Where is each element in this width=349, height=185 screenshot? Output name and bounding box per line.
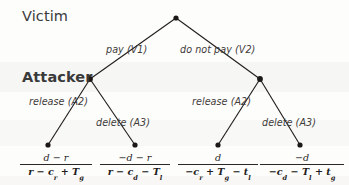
edge-label-pay: pay (V1) <box>106 44 147 55</box>
node-leaf-pay-delete <box>132 142 137 147</box>
edge-label-delete-left: delete (A3) <box>96 117 150 128</box>
node-root-victim <box>173 15 178 20</box>
payoff-denominator: −cd − Tl + tg <box>260 165 344 178</box>
payoff-nopay-delete: −d −cd − Tl + tg <box>260 152 344 178</box>
edge-label-release-right: release (A2) <box>192 96 251 107</box>
payoff-nopay-release: d −cr + Tg − tl <box>178 152 258 178</box>
node-attacker-right <box>257 76 263 82</box>
edge-label-delete-right: delete (A3) <box>262 117 316 128</box>
edge-delete-left-line <box>90 79 135 145</box>
game-tree-figure: Victim Attacker pay (V1) do not pay (V2)… <box>0 0 349 185</box>
player-label-attacker: Attacker <box>22 69 93 85</box>
edge-release-right-line <box>218 79 260 145</box>
player-label-victim: Victim <box>22 8 68 24</box>
node-leaf-pay-release <box>45 142 50 147</box>
payoff-denominator: −cr + Tg − tl <box>178 165 258 178</box>
payoff-pay-release: d − r r − cr + Tg <box>20 152 92 178</box>
payoff-denominator: r − cd − Tl <box>100 165 170 178</box>
node-leaf-nopay-delete <box>297 142 302 147</box>
edge-label-release-left: release (A2) <box>29 96 88 107</box>
edge-release-left-line <box>48 79 90 145</box>
payoff-numerator: d <box>178 152 258 164</box>
edge-label-do-not-pay: do not pay (V2) <box>180 44 255 55</box>
payoff-numerator: −d − r <box>100 152 170 164</box>
payoff-pay-delete: −d − r r − cd − Tl <box>100 152 170 178</box>
node-leaf-nopay-release <box>215 142 220 147</box>
payoff-numerator: d − r <box>20 152 92 164</box>
payoff-numerator: −d <box>260 152 344 164</box>
payoff-denominator: r − cr + Tg <box>20 165 92 178</box>
edge-delete-right-line <box>260 79 300 145</box>
